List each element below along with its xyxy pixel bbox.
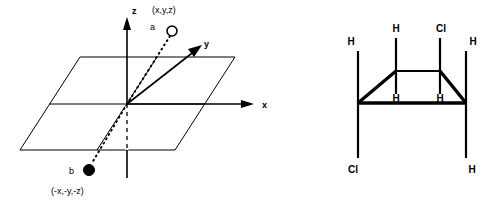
- atom-label-h-top-left: H: [392, 23, 399, 34]
- atom-label-cl-bottom-left: Cl: [348, 164, 358, 175]
- ring-skeleton: [358, 71, 466, 103]
- bond-right-slant: [440, 71, 466, 103]
- molecule-diagram: H H Cl H H H Cl H: [0, 0, 488, 207]
- substituent-bonds: [358, 38, 466, 158]
- bond-left-slant: [358, 71, 396, 103]
- atom-label-h-upper-left: H: [347, 36, 354, 47]
- atom-label-cl-top-right: Cl: [436, 23, 446, 34]
- atom-label-h-bottom-right: H: [468, 164, 475, 175]
- atom-label-h-inner-right: H: [436, 93, 443, 104]
- atom-label-h-inner-left: H: [392, 93, 399, 104]
- atom-label-h-upper-right: H: [469, 36, 476, 47]
- figure-page: z y x a (x,y,z) b: [0, 0, 488, 207]
